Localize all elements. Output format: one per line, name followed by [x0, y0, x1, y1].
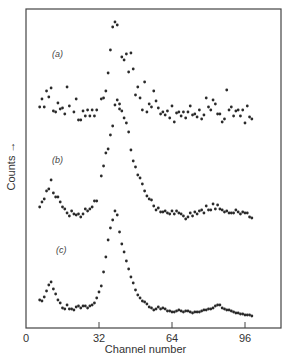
data-point — [212, 99, 215, 102]
data-point — [130, 52, 133, 55]
data-point — [41, 300, 44, 303]
data-point — [41, 98, 44, 101]
data-point — [111, 219, 114, 222]
data-point — [150, 199, 153, 202]
data-point — [123, 251, 126, 254]
data-point — [66, 304, 69, 307]
data-point — [214, 103, 217, 106]
data-point — [82, 110, 85, 113]
data-point — [159, 113, 162, 116]
data-point — [118, 108, 121, 111]
data-point — [73, 111, 76, 114]
data-point — [79, 216, 82, 219]
data-point — [68, 105, 71, 108]
data-point — [130, 276, 133, 279]
data-point — [104, 90, 107, 93]
data-point — [193, 113, 196, 116]
data-point — [120, 56, 123, 59]
x-axis-label: Channel number — [0, 343, 291, 355]
data-point — [221, 209, 224, 212]
data-point — [114, 104, 117, 107]
data-point — [79, 307, 82, 310]
data-point — [177, 111, 180, 114]
data-point — [203, 212, 206, 215]
data-point — [50, 87, 53, 90]
data-point — [47, 96, 50, 99]
data-point — [157, 107, 160, 110]
data-point — [216, 204, 219, 207]
data-point — [43, 296, 46, 299]
data-point — [228, 109, 231, 112]
data-point — [234, 209, 237, 212]
data-point — [66, 212, 69, 215]
data-point — [54, 293, 57, 296]
data-point — [205, 205, 208, 208]
data-point — [244, 122, 247, 125]
data-point — [152, 90, 155, 93]
data-point — [91, 206, 94, 209]
data-point — [45, 290, 48, 293]
data-point — [98, 291, 101, 294]
data-point — [66, 86, 69, 89]
data-point — [95, 200, 98, 203]
data-point — [209, 209, 212, 212]
data-point — [123, 117, 126, 120]
data-point — [136, 86, 139, 89]
data-point — [57, 299, 60, 302]
data-point — [118, 231, 121, 234]
data-point — [45, 190, 48, 193]
data-point — [116, 24, 119, 27]
data-point — [95, 109, 98, 112]
data-point — [225, 89, 228, 92]
data-point — [93, 302, 96, 305]
data-point — [164, 114, 167, 117]
data-points — [38, 21, 253, 318]
data-point — [250, 118, 253, 121]
data-point — [150, 106, 153, 109]
data-point — [189, 212, 192, 215]
data-point — [61, 206, 64, 209]
data-point — [63, 208, 66, 211]
series-annotations: (a)(b)(c) — [52, 49, 67, 255]
data-point — [155, 209, 158, 212]
data-point — [139, 97, 142, 100]
data-point — [134, 94, 137, 97]
data-point — [102, 271, 105, 274]
data-point — [111, 125, 114, 128]
data-point — [116, 214, 119, 217]
data-point — [232, 115, 235, 118]
data-point — [127, 131, 130, 134]
data-point — [143, 190, 146, 193]
data-point — [193, 211, 196, 214]
data-point — [95, 297, 98, 300]
data-point — [125, 122, 128, 125]
data-point — [68, 215, 71, 218]
data-point — [173, 121, 176, 124]
data-point — [196, 213, 199, 216]
data-point — [52, 192, 55, 195]
chart-area: 0326496 (a)(b)(c) — [0, 0, 291, 364]
data-point — [59, 201, 62, 204]
data-point — [88, 115, 91, 118]
data-point — [232, 212, 235, 215]
data-point — [84, 115, 87, 118]
series-label: (b) — [52, 155, 63, 165]
data-point — [143, 301, 146, 304]
data-point — [221, 121, 224, 124]
data-point — [63, 308, 66, 311]
data-point — [225, 210, 228, 213]
data-point — [45, 90, 48, 93]
data-point — [109, 227, 112, 230]
data-point — [125, 260, 128, 263]
data-point — [184, 117, 187, 120]
data-point — [43, 106, 46, 109]
data-point — [200, 118, 203, 121]
data-point — [130, 149, 133, 152]
data-point — [250, 217, 253, 220]
data-point — [52, 288, 55, 291]
data-point — [93, 115, 96, 118]
data-point — [104, 152, 107, 155]
data-point — [50, 179, 53, 182]
data-point — [88, 208, 91, 211]
data-point — [239, 213, 242, 216]
